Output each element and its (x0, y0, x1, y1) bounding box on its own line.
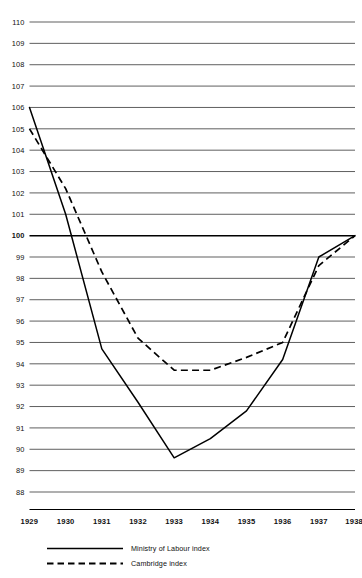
legend-label-cambridge-index: Cambridge index (131, 559, 187, 568)
series-line-ministry-of-labour-index (30, 107, 356, 457)
x-tick-label-1932: 1932 (129, 517, 147, 526)
gridlines-group (30, 22, 356, 492)
y-axis-tick-labels: 1101091081071061051041031021011009998979… (12, 18, 25, 497)
chart-plot-area: 1101091081071061051041031021011009998979… (0, 0, 362, 578)
legend-label-ministry-of-labour-index: Ministry of Labour index (131, 544, 210, 553)
y-tick-label-99: 99 (16, 253, 25, 262)
x-axis-tick-labels: 1929193019311932193319341935193619371938 (21, 517, 362, 526)
y-tick-label-106: 106 (12, 103, 25, 112)
y-tick-label-107: 107 (12, 82, 25, 91)
y-tick-label-109: 109 (12, 39, 25, 48)
y-tick-label-101: 101 (12, 210, 25, 219)
data-series-group (30, 107, 356, 457)
y-tick-label-103: 103 (12, 167, 25, 176)
x-tick-label-1934: 1934 (201, 517, 219, 526)
y-tick-label-97: 97 (16, 295, 25, 304)
x-tick-label-1929: 1929 (21, 517, 39, 526)
y-tick-label-100: 100 (12, 231, 25, 240)
line-chart-figure: 1101091081071061051041031021011009998979… (0, 0, 362, 578)
x-tick-label-1937: 1937 (310, 517, 328, 526)
x-tick-label-1930: 1930 (57, 517, 75, 526)
y-tick-label-104: 104 (12, 146, 25, 155)
y-tick-label-89: 89 (16, 466, 25, 475)
chart-legend: Ministry of Labour indexCambridge index (47, 544, 210, 568)
y-tick-label-91: 91 (16, 424, 25, 433)
y-tick-label-92: 92 (16, 402, 25, 411)
y-tick-label-90: 90 (16, 445, 25, 454)
y-tick-label-102: 102 (12, 189, 25, 198)
x-tick-label-1936: 1936 (274, 517, 292, 526)
x-tick-label-1933: 1933 (165, 517, 183, 526)
y-tick-label-110: 110 (12, 18, 24, 27)
x-tick-label-1938: 1938 (345, 517, 362, 526)
y-tick-label-93: 93 (16, 381, 25, 390)
x-tick-label-1935: 1935 (238, 517, 256, 526)
y-tick-label-105: 105 (12, 125, 25, 134)
x-tick-label-1931: 1931 (93, 517, 111, 526)
y-tick-label-108: 108 (12, 60, 25, 69)
y-tick-label-98: 98 (16, 274, 25, 283)
series-line-cambridge-index (30, 129, 356, 370)
y-tick-label-94: 94 (16, 360, 25, 369)
y-tick-label-88: 88 (16, 488, 25, 497)
y-tick-label-95: 95 (16, 338, 25, 347)
y-tick-label-96: 96 (16, 317, 25, 326)
